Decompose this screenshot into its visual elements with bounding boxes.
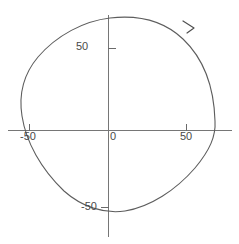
- x-axis-tick-label-50: 50: [180, 131, 192, 142]
- y-axis-tick-label-neg50: -50: [81, 201, 97, 212]
- y-axis-tick-label-50: 50: [76, 41, 88, 52]
- arrow-head-icon: [183, 21, 194, 33]
- plot-svg: [0, 0, 239, 244]
- parametric-curve: [21, 17, 215, 211]
- x-axis-tick-label-neg50: -50: [20, 131, 36, 142]
- origin-label: 0: [110, 131, 116, 142]
- plot-canvas: 50 -50 -50 50 0: [0, 0, 239, 244]
